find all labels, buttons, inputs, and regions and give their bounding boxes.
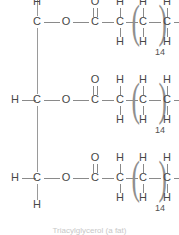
bond-repeat-terminal-2 xyxy=(149,100,161,101)
alpha-carbon-1: C xyxy=(114,16,126,27)
repeat-carbon-1: C xyxy=(137,16,149,27)
backbone-bond-c2-c3 xyxy=(37,106,38,172)
backbone-c3-h-bottom: H xyxy=(31,199,43,210)
alpha-carbon-3: C xyxy=(114,172,126,183)
bond-alpha-1-h-bottom xyxy=(120,28,121,37)
bond-terminal-1-h-bottom xyxy=(167,28,168,37)
bond-c1-esterO-1 xyxy=(44,22,60,23)
bond-repeat-3-h-top xyxy=(143,164,144,173)
bond-repeat-2-h-top xyxy=(143,86,144,95)
bond-repeat-terminal-3 xyxy=(149,178,161,179)
bond-alpha-3-h-top xyxy=(120,164,121,173)
bond-terminal-2-h-bottom xyxy=(167,106,168,115)
bond-terminal-2-h-right xyxy=(174,100,179,101)
backbone-c2-h-left: H xyxy=(9,94,21,105)
backbone-carbon-2: C xyxy=(31,94,43,105)
bond-alpha-1-h-top xyxy=(120,8,121,17)
repeat-carbon-3-h-top: H xyxy=(137,152,149,163)
bond-repeat-2-h-bottom xyxy=(143,106,144,115)
backbone-bond-c1-c2 xyxy=(37,28,38,94)
bond-alpha-2-h-top xyxy=(120,86,121,95)
repeat-carbon-2: C xyxy=(137,94,149,105)
bond-carbonyl-alpha-3 xyxy=(102,178,114,179)
backbone-c1-h-top: H xyxy=(31,0,43,7)
alpha-carbon-3-h-top: H xyxy=(114,152,126,163)
terminal-carbon-3: C xyxy=(161,172,173,183)
terminal-carbon-1-h-bottom: H xyxy=(161,36,173,47)
terminal-carbon-2-h-top: H xyxy=(161,74,173,85)
bond-terminal-3-h-bottom xyxy=(167,184,168,193)
double-bond-line-a-1 xyxy=(93,8,94,17)
alpha-carbon-2: C xyxy=(114,94,126,105)
terminal-carbon-3-h-top: H xyxy=(161,152,173,163)
bond-repeat-1-h-bottom xyxy=(143,28,144,37)
carbonyl-oxygen-2: O xyxy=(89,74,101,85)
double-bond-line-b-1 xyxy=(97,8,98,17)
alpha-carbon-3-h-bottom: H xyxy=(114,192,126,203)
repeat-carbon-2-h-bottom: H xyxy=(137,114,149,125)
repeat-count-1: 14 xyxy=(155,48,165,57)
bond-alpha-3-h-bottom xyxy=(120,184,121,193)
terminal-carbon-1: C xyxy=(161,16,173,27)
carbonyl-oxygen-1: O xyxy=(89,0,101,7)
alpha-carbon-2-h-bottom: H xyxy=(114,114,126,125)
carbonyl-carbon-3: C xyxy=(89,172,101,183)
terminal-carbon-3-h-bottom: H xyxy=(161,192,173,203)
bond-c3-esterO-3 xyxy=(44,178,60,179)
repeat-carbon-1-h-top: H xyxy=(137,0,149,7)
bond-c2-esterO-2 xyxy=(44,100,60,101)
bond-terminal-3-h-right xyxy=(174,178,179,179)
bond-esterO-carbonyl-1 xyxy=(73,22,89,23)
alpha-carbon-1-h-top: H xyxy=(114,0,126,7)
ester-oxygen-3: O xyxy=(60,172,72,183)
double-bond-line-b-2 xyxy=(97,86,98,95)
repeat-count-2: 14 xyxy=(155,126,165,135)
terminal-carbon-2-h-bottom: H xyxy=(161,114,173,125)
bond-repeat-3-h-bottom xyxy=(143,184,144,193)
double-bond-line-a-3 xyxy=(93,164,94,173)
repeat-carbon-1-h-bottom: H xyxy=(137,36,149,47)
alpha-carbon-1-h-bottom: H xyxy=(114,36,126,47)
bond-esterO-carbonyl-2 xyxy=(73,100,89,101)
backbone-c3-h-left: H xyxy=(9,172,21,183)
bond-carbonyl-alpha-1 xyxy=(102,22,114,23)
ester-oxygen-2: O xyxy=(60,94,72,105)
repeat-carbon-3: C xyxy=(137,172,149,183)
bond-terminal-1-h-right xyxy=(174,22,179,23)
alpha-carbon-2-h-top: H xyxy=(114,74,126,85)
bond-terminal-3-h-top xyxy=(167,164,168,173)
backbone-carbon-1: C xyxy=(31,16,43,27)
bond-esterO-carbonyl-3 xyxy=(73,178,89,179)
bond-terminal-2-h-top xyxy=(167,86,168,95)
terminal-carbon-2: C xyxy=(161,94,173,105)
double-bond-line-a-2 xyxy=(93,86,94,95)
double-bond-line-b-3 xyxy=(97,164,98,173)
carbonyl-carbon-1: C xyxy=(89,16,101,27)
bond-repeat-terminal-1 xyxy=(149,22,161,23)
repeat-carbon-3-h-bottom: H xyxy=(137,192,149,203)
backbone-carbon-3: C xyxy=(31,172,43,183)
figure-caption: Triacylglycerol (a fat) xyxy=(0,226,179,235)
repeat-carbon-2-h-top: H xyxy=(137,74,149,85)
bond-repeat-1-h-top xyxy=(143,8,144,17)
bond-terminal-1-h-top xyxy=(167,8,168,17)
ester-oxygen-1: O xyxy=(60,16,72,27)
bond-alpha-2-h-bottom xyxy=(120,106,121,115)
molecular-structure-figure: H C O C O C H H ( ) C H H 14 C H H H H C… xyxy=(0,0,179,235)
repeat-count-3: 14 xyxy=(155,204,165,213)
carbonyl-carbon-2: C xyxy=(89,94,101,105)
carbonyl-oxygen-3: O xyxy=(89,152,101,163)
bond-carbonyl-alpha-2 xyxy=(102,100,114,101)
terminal-carbon-1-h-top: H xyxy=(161,0,173,7)
